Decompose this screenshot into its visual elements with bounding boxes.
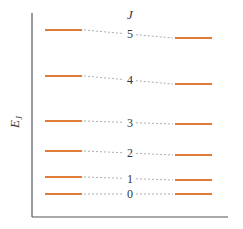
level-label: 2 xyxy=(127,146,133,160)
energy-level-J3: 3 xyxy=(45,116,212,130)
level-label: 3 xyxy=(127,116,133,130)
level-label: 4 xyxy=(127,73,133,87)
energy-level-diagram: EJ J 543210 xyxy=(0,0,243,229)
y-axis-title: EJ xyxy=(7,115,24,129)
y-axis-title-subscript: J xyxy=(14,115,24,120)
column-header-j: J xyxy=(127,7,134,22)
y-axis-title-main: E xyxy=(7,120,22,129)
energy-level-J1: 1 xyxy=(45,172,212,186)
level-group: 543210 xyxy=(45,27,212,201)
level-label: 5 xyxy=(127,27,133,41)
level-label: 1 xyxy=(127,172,133,186)
energy-level-J0: 0 xyxy=(45,187,212,201)
energy-level-J2: 2 xyxy=(45,146,212,160)
energy-level-J4: 4 xyxy=(45,73,212,87)
level-label: 0 xyxy=(127,187,133,201)
energy-level-J5: 5 xyxy=(45,27,212,41)
